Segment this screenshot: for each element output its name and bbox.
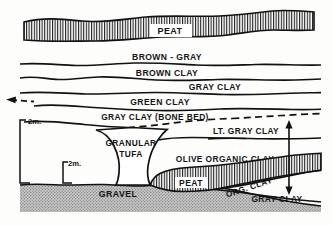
label-gray-clay-upper: GRAY CLAY bbox=[189, 82, 241, 92]
label-granular-tufa-line2: TUFA bbox=[119, 149, 142, 159]
label-gray-clay-lower: GRAY CLAY bbox=[251, 194, 302, 204]
scale-bar-inner-label: 2m. bbox=[68, 159, 81, 168]
scale-bar-outer-label: 2m. bbox=[28, 117, 41, 126]
label-brown-gray: BROWN - GRAY bbox=[132, 52, 202, 62]
label-granular-tufa-line1: GRANULAR bbox=[105, 138, 156, 148]
bone-bed-arrow-left-icon bbox=[6, 97, 16, 104]
label-green-clay: GREEN CLAY bbox=[130, 97, 190, 107]
unit-peat-upper: PEAT bbox=[24, 10, 314, 41]
contact-brown-gray-base bbox=[20, 63, 321, 66]
label-gravel: GRAVEL bbox=[99, 189, 138, 199]
label-brown-clay: BROWN CLAY bbox=[136, 68, 198, 78]
label-gray-clay-bone-bed: GRAY CLAY (BONE BED) bbox=[101, 112, 209, 122]
label-lt-gray-clay: LT. GRAY CLAY bbox=[213, 126, 279, 136]
scale-bar-inner: 2m. bbox=[63, 159, 81, 183]
contact-olive-top-left bbox=[158, 138, 246, 141]
label-peat-upper: PEAT bbox=[158, 26, 183, 36]
scale-bar-outer: 2m. bbox=[20, 117, 41, 183]
contact-gray-clay-base bbox=[20, 92, 321, 94]
unit-gray-clay-lower: GRAY CLAY bbox=[251, 194, 302, 204]
dashed-horizon-right bbox=[232, 114, 321, 119]
geological-cross-section-figure: GRAVEL PEAT GRANULAR TUFA OLIVE ORGANIC … bbox=[0, 0, 333, 225]
label-peat-lower: PEAT bbox=[179, 178, 203, 188]
cross-section-drawing: GRAVEL PEAT GRANULAR TUFA OLIVE ORGANIC … bbox=[0, 0, 333, 225]
